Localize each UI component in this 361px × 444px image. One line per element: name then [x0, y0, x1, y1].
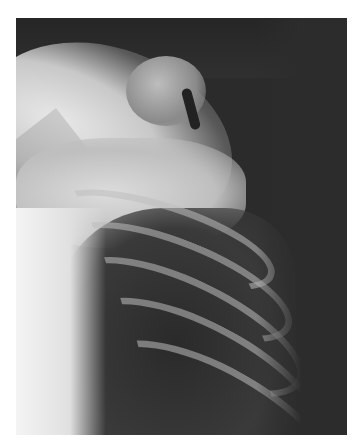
xray-image	[16, 18, 347, 435]
right-dark-region	[256, 18, 347, 435]
